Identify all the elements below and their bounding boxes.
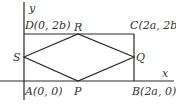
diagram-canvas: y x D(0, 2b) C(2a, 2b) A(0, 0) B(2a, 0) … [0,0,176,104]
x-axis-label: x [162,67,169,80]
vertex-label-b: B(2a, 0) [131,85,176,98]
y-axis-label: y [28,2,36,15]
vertex-label-r: R [73,21,82,34]
vertex-label-q: Q [136,51,145,64]
vertex-label-a: A(0, 0) [24,85,63,98]
vertex-label-c: C(2a, 2b) [130,19,176,32]
rhombus-pqrs [24,34,134,81]
vertex-label-s: S [13,51,21,64]
vertex-label-d: D(0, 2b) [24,19,70,32]
vertex-label-p: P [73,85,82,98]
